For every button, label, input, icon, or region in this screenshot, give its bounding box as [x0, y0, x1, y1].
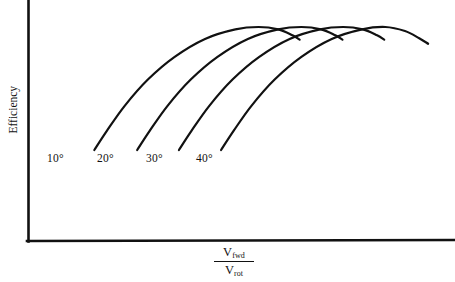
x-axis-label: Vfwd Vrot — [206, 245, 262, 278]
x-axis-label-denominator: Vrot — [206, 263, 262, 278]
denominator-subscript: rot — [234, 269, 243, 278]
curve-30deg — [179, 27, 384, 150]
y-axis-label: Efficiency — [8, 70, 20, 150]
curve-label-30deg: 30° — [146, 153, 163, 165]
numerator-variable: V — [223, 245, 232, 259]
curve-label-10deg: 10° — [47, 153, 64, 165]
curve-20deg — [137, 27, 342, 150]
denominator-variable: V — [225, 263, 234, 277]
curve-10deg — [94, 27, 299, 150]
fraction-bar — [214, 261, 254, 262]
figure-canvas: Efficiency 10° 20° 30° 40° Vfwd Vrot — [0, 0, 455, 282]
curve-label-40deg: 40° — [196, 153, 213, 165]
x-axis-line — [27, 240, 455, 241]
curve-40deg — [221, 27, 428, 150]
x-axis-label-numerator: Vfwd — [206, 245, 262, 260]
plot-area — [0, 0, 455, 282]
curve-label-20deg: 20° — [97, 153, 114, 165]
numerator-subscript: fwd — [232, 251, 245, 260]
